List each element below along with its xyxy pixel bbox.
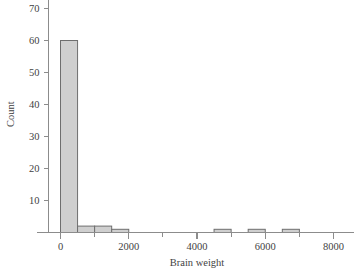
histogram-chart: 10203040506070 02000400060008000 Brain w…: [0, 0, 361, 277]
y-tick-label: 40: [29, 99, 40, 110]
y-tick-label: 70: [29, 3, 40, 14]
histogram-bar: [95, 226, 112, 232]
histogram-bar: [78, 226, 95, 232]
x-tick-label: 8000: [323, 241, 344, 252]
y-axis-title: Count: [5, 101, 16, 127]
chart-background: [0, 0, 361, 277]
y-tick-label: 60: [29, 35, 40, 46]
x-tick-label: 2000: [118, 241, 139, 252]
y-tick-label: 30: [29, 131, 40, 142]
x-tick-label: 4000: [187, 241, 208, 252]
y-tick-label: 20: [29, 163, 40, 174]
x-tick-label: 0: [58, 241, 63, 252]
histogram-bar: [61, 41, 78, 233]
x-axis-title: Brain weight: [170, 257, 225, 268]
y-tick-label: 50: [29, 67, 40, 78]
x-tick-label: 6000: [255, 241, 276, 252]
chart-canvas: 10203040506070 02000400060008000 Brain w…: [0, 0, 361, 277]
y-tick-label: 10: [29, 195, 40, 206]
